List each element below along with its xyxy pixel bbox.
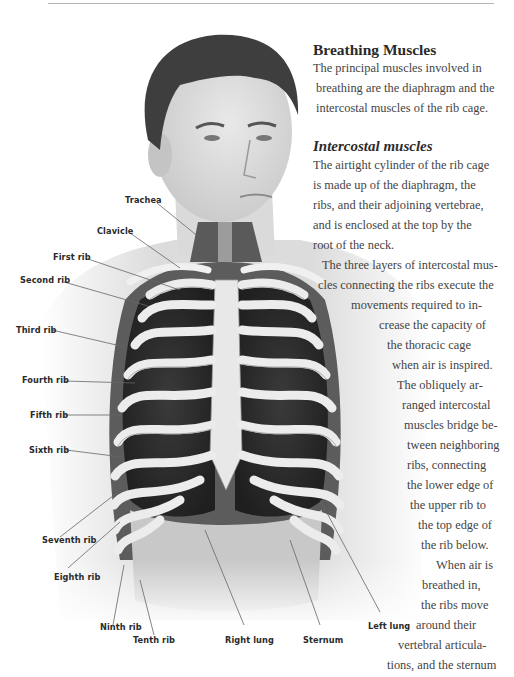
body-line: is made up of the diaphragm, the bbox=[313, 177, 476, 193]
label-fourth-rib: Fourth rib bbox=[22, 375, 69, 385]
label-clavicle: Clavicle bbox=[97, 226, 134, 236]
label-second-rib: Second rib bbox=[20, 275, 70, 285]
label-eighth-rib: Eighth rib bbox=[54, 572, 100, 582]
body-line: tions, and the sternum bbox=[387, 657, 496, 673]
label-third-rib: Third rib bbox=[16, 325, 57, 335]
label-seventh-rib: Seventh rib bbox=[42, 535, 97, 545]
intro-line: intercostal muscles of the rib cage. bbox=[316, 100, 488, 116]
body-line: The three layers of intercostal mus- bbox=[322, 257, 498, 273]
label-sternum: Sternum bbox=[303, 635, 343, 645]
body-line: the ribs move bbox=[421, 597, 488, 613]
body-line: and is enclosed at the top by the bbox=[313, 217, 472, 233]
label-left-lung: Left lung bbox=[368, 621, 410, 631]
label-sixth-rib: Sixth rib bbox=[29, 445, 69, 455]
body-line: The obliquely ar- bbox=[397, 377, 483, 393]
body-line: the top edge of bbox=[418, 517, 492, 533]
body-line: muscles bridge be- bbox=[404, 417, 498, 433]
label-ninth-rib: Ninth rib bbox=[100, 622, 142, 632]
body-line: the upper rib to bbox=[410, 497, 486, 513]
body-line: when air is inspired. bbox=[392, 357, 492, 373]
body-line: cles connecting the ribs execute the bbox=[318, 277, 494, 293]
body-line: the rib below. bbox=[421, 537, 489, 553]
body-line: breathed in, bbox=[422, 577, 481, 593]
body-line: ribs, and their adjoining vertebrae, bbox=[313, 197, 484, 213]
intro-line: breathing are the diaphragm and the bbox=[316, 80, 495, 96]
body-line: movements required to in- bbox=[351, 297, 482, 313]
intro-line: The principal muscles involved in bbox=[313, 60, 482, 76]
label-right-lung: Right lung bbox=[225, 635, 274, 645]
body-line: the lower edge of bbox=[407, 477, 493, 493]
subsection-title: Intercostal muscles bbox=[313, 138, 433, 155]
body-line: The airtight cylinder of the rib cage bbox=[313, 157, 489, 173]
body-line: around their bbox=[416, 617, 476, 633]
body-line: ranged intercostal bbox=[402, 397, 490, 413]
body-line: root of the neck. bbox=[313, 237, 394, 253]
label-trachea: Trachea bbox=[125, 195, 162, 205]
label-tenth-rib: Tenth rib bbox=[133, 635, 175, 645]
body-line: When air is bbox=[436, 557, 493, 573]
body-line: the thoracic cage bbox=[387, 337, 471, 353]
body-line: vertebral articula- bbox=[398, 637, 486, 653]
body-line: crease the capacity of bbox=[379, 317, 486, 333]
body-line: tween neighboring bbox=[407, 437, 500, 453]
label-fifth-rib: Fifth rib bbox=[30, 410, 68, 420]
section-title: Breathing Muscles bbox=[313, 41, 436, 59]
body-line: ribs, connecting bbox=[407, 457, 486, 473]
label-first-rib: First rib bbox=[53, 252, 91, 262]
